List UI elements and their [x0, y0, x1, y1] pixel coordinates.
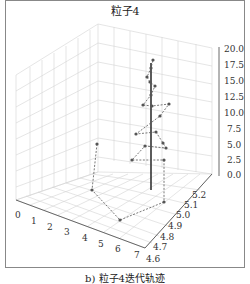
- svg-text:4.6: 4.6: [146, 254, 161, 264]
- trajectory-point: [162, 200, 165, 203]
- svg-text:5.1: 5.1: [184, 200, 198, 210]
- svg-text:4.8: 4.8: [160, 232, 175, 242]
- trajectory-point: [154, 130, 157, 133]
- svg-text:10.0: 10.0: [224, 108, 244, 118]
- svg-text:2: 2: [47, 222, 53, 232]
- 3d-plot: 20.0 17.5 15.0 12.5 10.0 7.5 5.0 2.5 0.0…: [0, 0, 250, 284]
- trajectory-point: [151, 58, 154, 61]
- trajectory-point: [161, 141, 164, 144]
- svg-text:4.7: 4.7: [153, 242, 168, 252]
- svg-text:15.0: 15.0: [224, 76, 244, 86]
- trajectory-point: [130, 158, 133, 161]
- svg-text:5.2: 5.2: [192, 190, 206, 200]
- svg-text:3: 3: [64, 227, 70, 237]
- svg-text:1: 1: [31, 216, 37, 226]
- svg-text:5.0: 5.0: [176, 210, 191, 220]
- x-axis-ticks: 0 1 2 3 4 5 6 7: [15, 210, 140, 260]
- trajectory-point: [150, 104, 153, 107]
- trajectory-line: [92, 60, 169, 220]
- svg-text:0: 0: [15, 210, 21, 220]
- svg-text:20.0: 20.0: [224, 44, 244, 54]
- trajectory-point: [162, 158, 165, 161]
- svg-text:4: 4: [82, 233, 88, 243]
- svg-text:6: 6: [115, 244, 121, 254]
- trajectory-point: [90, 188, 93, 191]
- trajectory-point: [158, 114, 161, 117]
- svg-text:5: 5: [98, 239, 104, 249]
- svg-text:0.0: 0.0: [227, 170, 242, 180]
- trajectory-point: [149, 66, 152, 69]
- svg-text:12.5: 12.5: [224, 92, 244, 102]
- trajectory-point: [148, 80, 151, 83]
- svg-text:7: 7: [134, 250, 140, 260]
- trajectory-point: [149, 93, 152, 96]
- trajectory-point: [167, 102, 170, 105]
- trajectory-point: [143, 144, 146, 147]
- trajectory-point: [145, 75, 148, 78]
- trajectory-point: [118, 218, 121, 221]
- chart-title: 粒子4: [0, 2, 250, 18]
- svg-text:17.5: 17.5: [224, 60, 244, 70]
- trajectory-point: [95, 142, 98, 145]
- svg-text:2.5: 2.5: [227, 155, 242, 165]
- svg-text:5.0: 5.0: [227, 140, 242, 150]
- z-axis-ticks: 20.0 17.5 15.0 12.5 10.0 7.5 5.0 2.5 0.0: [224, 44, 244, 180]
- svg-text:7.5: 7.5: [227, 124, 242, 134]
- figure-caption: b) 粒子4迭代轨迹: [0, 270, 250, 284]
- svg-text:4.9: 4.9: [168, 221, 183, 231]
- trajectory-point: [164, 146, 167, 149]
- trajectory-point: [141, 103, 144, 106]
- trajectory-point: [153, 84, 156, 87]
- trajectory-point: [134, 132, 137, 135]
